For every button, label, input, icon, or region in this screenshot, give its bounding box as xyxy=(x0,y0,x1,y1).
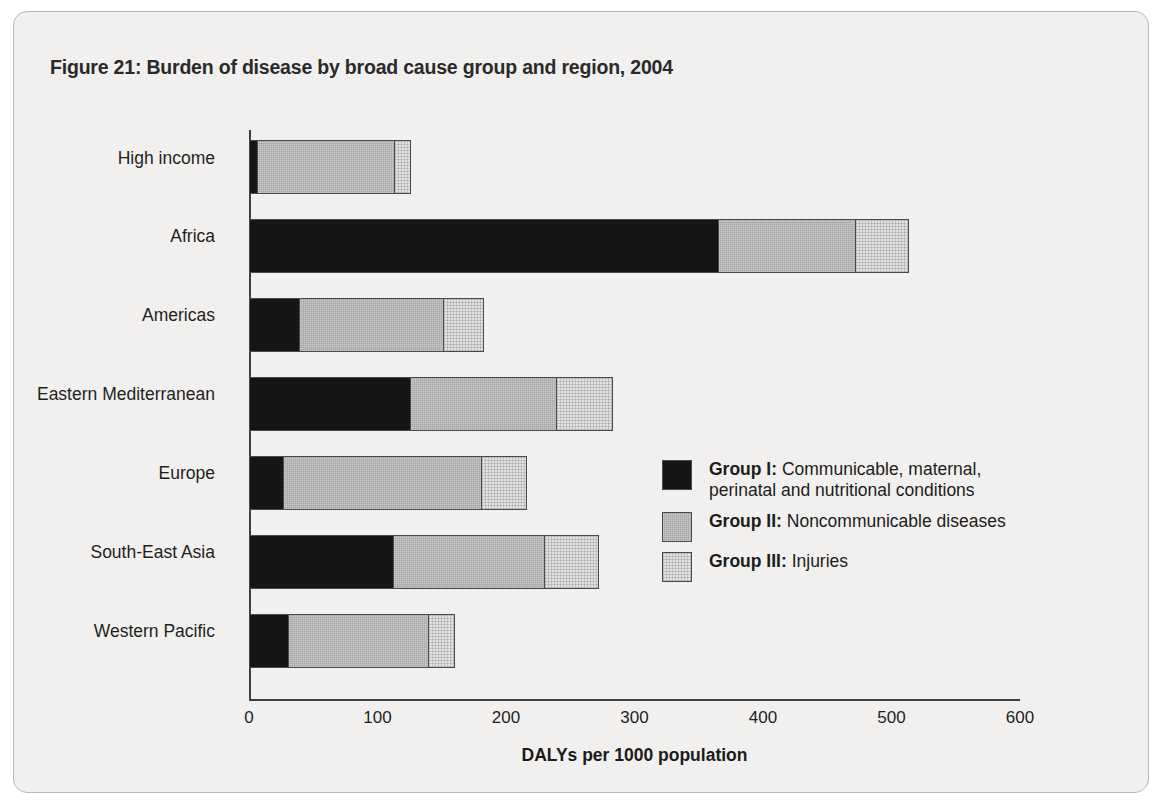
category-label-europe: Europe xyxy=(159,465,215,483)
legend-label-group-i: Group I: Communicable, maternal, perinat… xyxy=(709,459,1049,502)
segment-group-iii xyxy=(556,377,612,431)
category-axis-labels: High income Africa Americas Eastern Medi… xyxy=(14,130,229,700)
segment-group-ii xyxy=(393,535,544,589)
legend-desc-group-iii: Injuries xyxy=(787,551,848,571)
category-label-africa: Africa xyxy=(170,228,215,246)
bar-eastern-mediterranean[interactable] xyxy=(249,377,613,431)
segment-group-ii xyxy=(288,614,429,668)
segment-group-i xyxy=(249,219,719,273)
segment-group-ii xyxy=(718,219,855,273)
legend-bold-group-i: Group I: xyxy=(709,459,777,479)
legend-item-group-ii[interactable]: Group II: Noncommunicable diseases xyxy=(662,511,1092,542)
x-axis-line xyxy=(249,699,1020,701)
bar-south-east-asia[interactable] xyxy=(249,535,599,589)
legend-bold-group-ii: Group II: xyxy=(709,511,782,531)
legend-swatch-group-i-icon xyxy=(662,460,692,490)
segment-group-iii xyxy=(428,614,455,668)
segment-group-i xyxy=(249,456,284,510)
legend: Group I: Communicable, maternal, perinat… xyxy=(662,459,1092,591)
x-tick-600: 600 xyxy=(1006,708,1034,728)
legend-swatch-group-iii-icon xyxy=(662,552,692,582)
bar-americas[interactable] xyxy=(249,298,484,352)
segment-group-iii xyxy=(394,140,410,194)
bar-africa[interactable] xyxy=(249,219,909,273)
legend-item-group-i[interactable]: Group I: Communicable, maternal, perinat… xyxy=(662,459,1092,502)
category-label-eastern-mediterranean: Eastern Mediterranean xyxy=(37,386,215,404)
segment-group-i xyxy=(249,614,289,668)
segment-group-iii xyxy=(855,219,910,273)
segment-group-ii xyxy=(257,140,395,194)
legend-label-group-iii: Group III: Injuries xyxy=(709,551,848,572)
segment-group-i xyxy=(249,377,411,431)
segment-group-i xyxy=(249,298,300,352)
segment-group-iii xyxy=(481,456,527,510)
x-tick-500: 500 xyxy=(877,708,905,728)
figure-panel: Figure 21: Burden of disease by broad ca… xyxy=(13,11,1149,793)
bar-europe[interactable] xyxy=(249,456,527,510)
x-tick-400: 400 xyxy=(749,708,777,728)
bar-high-income[interactable] xyxy=(249,140,411,194)
x-tick-0: 0 xyxy=(244,708,253,728)
x-tick-200: 200 xyxy=(492,708,520,728)
category-label-high-income: High income xyxy=(118,150,215,168)
segment-group-i xyxy=(249,535,394,589)
bar-western-pacific[interactable] xyxy=(249,614,455,668)
legend-bold-group-iii: Group III: xyxy=(709,551,787,571)
legend-swatch-group-ii-icon xyxy=(662,512,692,542)
legend-item-group-iii[interactable]: Group III: Injuries xyxy=(662,551,1092,582)
category-label-americas: Americas xyxy=(142,307,215,325)
x-tick-300: 300 xyxy=(620,708,648,728)
legend-label-group-ii: Group II: Noncommunicable diseases xyxy=(709,511,1006,532)
segment-group-ii xyxy=(410,377,557,431)
legend-desc-group-ii: Noncommunicable diseases xyxy=(782,511,1006,531)
category-label-western-pacific: Western Pacific xyxy=(94,623,215,641)
plot-area: 0 100 200 300 400 500 600 DALYs per 1000… xyxy=(249,130,1020,700)
segment-group-ii xyxy=(299,298,444,352)
segment-group-iii xyxy=(443,298,484,352)
category-label-south-east-asia: South-East Asia xyxy=(90,544,215,562)
segment-group-iii xyxy=(544,535,599,589)
figure-title: Figure 21: Burden of disease by broad ca… xyxy=(50,56,673,79)
x-axis-title: DALYs per 1000 population xyxy=(249,745,1020,766)
x-tick-100: 100 xyxy=(363,708,391,728)
segment-group-ii xyxy=(283,456,482,510)
